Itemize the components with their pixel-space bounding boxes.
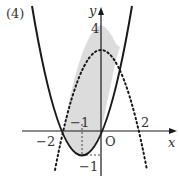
graph-diagram: (4) y 4 −1 2 −2 O x −1 [0,0,179,178]
x-axis-label: x [168,135,176,150]
tick-x-neg1: −1 [70,115,89,130]
tick-y-4: 4 [91,21,99,36]
figure-label: (4) [6,6,24,21]
x-axis-arrow-icon [169,128,177,134]
tick-x-neg2: −2 [36,134,55,149]
y-axis-label: y [88,3,97,18]
tick-y-neg1: −1 [79,159,98,174]
tick-x-2: 2 [141,115,149,130]
y-axis-arrow-icon [98,7,104,15]
origin-label: O [105,134,116,149]
